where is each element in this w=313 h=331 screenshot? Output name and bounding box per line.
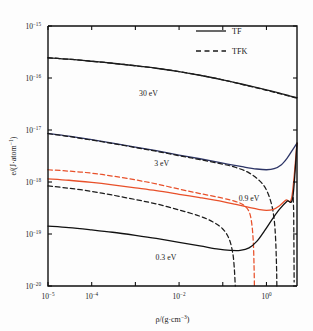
chart-svg: 10−510−410−210010−1510−1610−1710−1810−19…: [0, 0, 313, 331]
curve-annotation: 0.9 eV: [239, 194, 260, 203]
figure-container: 10−510−410−210010−1510−1610−1710−1810−19…: [0, 0, 313, 331]
curve-annotation: 3 eV: [154, 159, 169, 168]
legend-label-tfk: TFK: [232, 47, 248, 56]
curve-annotation: 0.3 eV: [156, 253, 177, 262]
curve-annotation: 30 eV: [139, 89, 158, 98]
legend-label-tf: TF: [232, 27, 242, 36]
